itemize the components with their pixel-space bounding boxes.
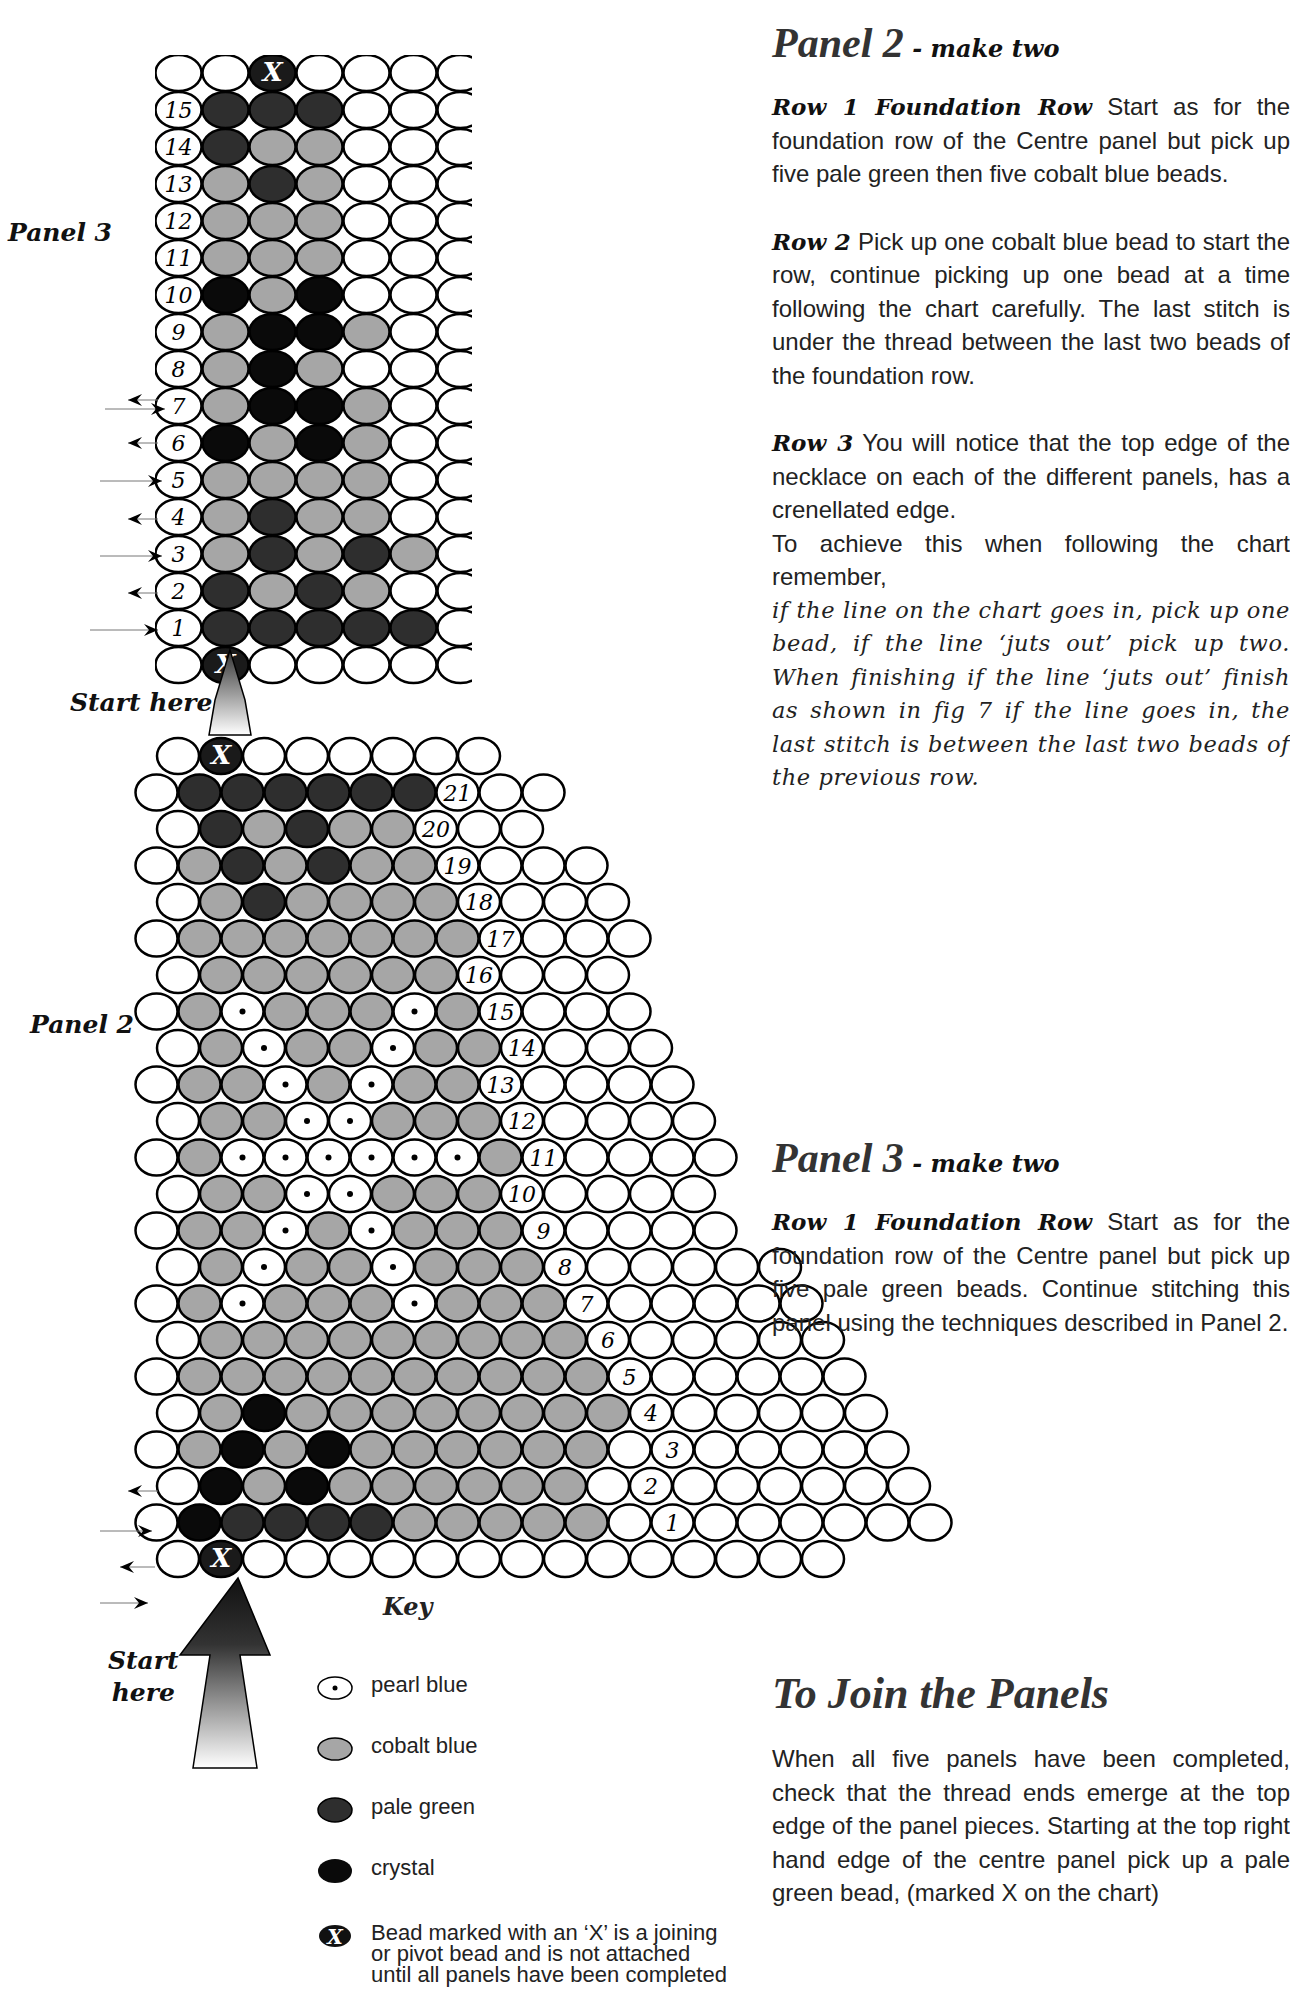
bead — [250, 240, 296, 276]
bead — [415, 738, 457, 774]
bead — [179, 1067, 221, 1103]
start-here-label-top: Start here — [70, 688, 212, 717]
bead — [344, 573, 390, 609]
bead — [297, 351, 343, 387]
bead — [351, 775, 393, 811]
bead — [109, 499, 155, 535]
bead — [391, 573, 437, 609]
bead — [485, 425, 531, 461]
bead — [485, 499, 531, 535]
bead — [286, 738, 328, 774]
bead — [344, 55, 390, 91]
bead — [297, 647, 343, 683]
panel3-bead-grid: X151413121110987654321X — [109, 55, 531, 683]
bead — [544, 1322, 586, 1358]
bead — [203, 388, 249, 424]
key-label: cobalt blue — [371, 1735, 477, 1757]
bead — [250, 351, 296, 387]
bead — [344, 166, 390, 202]
bead — [759, 1468, 801, 1504]
bead — [824, 1432, 866, 1468]
bead — [297, 240, 343, 276]
bead — [802, 1395, 844, 1431]
bead — [888, 1468, 930, 1504]
bead — [458, 1103, 500, 1139]
bead — [415, 1322, 457, 1358]
bead — [544, 1468, 586, 1504]
bead — [329, 1541, 371, 1577]
bead — [250, 388, 296, 424]
bead — [297, 277, 343, 313]
bead — [587, 1468, 629, 1504]
bead — [243, 811, 285, 847]
bead — [609, 1432, 651, 1468]
bead — [203, 610, 249, 646]
bead — [250, 610, 296, 646]
bead — [351, 994, 393, 1030]
bead — [265, 1432, 307, 1468]
bead — [501, 1468, 543, 1504]
bead — [109, 647, 155, 683]
bead — [587, 1103, 629, 1139]
bead — [179, 1213, 221, 1249]
bead — [438, 55, 484, 91]
bead — [485, 462, 531, 498]
bead — [652, 1140, 694, 1176]
bead — [480, 1432, 522, 1468]
bead — [179, 1286, 221, 1322]
bead — [738, 1505, 780, 1541]
bead — [308, 1359, 350, 1395]
bead — [437, 1505, 479, 1541]
bead — [802, 1468, 844, 1504]
start-arrow-panel2 — [180, 1578, 270, 1768]
bead — [344, 92, 390, 128]
bead — [845, 1468, 887, 1504]
bead — [351, 1505, 393, 1541]
bead — [458, 1322, 500, 1358]
bead — [501, 1249, 543, 1285]
bead — [243, 738, 285, 774]
bead — [308, 1067, 350, 1103]
bead — [157, 884, 199, 920]
bead — [391, 425, 437, 461]
svg-text:19: 19 — [444, 854, 472, 879]
bead — [372, 884, 414, 920]
bead — [136, 1067, 178, 1103]
bead — [372, 738, 414, 774]
bead — [109, 351, 155, 387]
bead — [203, 92, 249, 128]
bead — [372, 811, 414, 847]
bead — [523, 1505, 565, 1541]
bead — [200, 1468, 242, 1504]
bead — [179, 775, 221, 811]
x-bead-icon: X — [315, 1922, 355, 1950]
bead — [480, 1140, 522, 1176]
bead — [109, 129, 155, 165]
bead — [344, 203, 390, 239]
bead — [329, 738, 371, 774]
bead — [157, 1030, 199, 1066]
bead — [265, 1505, 307, 1541]
bead — [824, 1505, 866, 1541]
bead — [652, 1286, 694, 1322]
bead — [485, 351, 531, 387]
bead — [523, 1067, 565, 1103]
bead — [297, 462, 343, 498]
bead — [501, 884, 543, 920]
bead — [587, 1249, 629, 1285]
bead — [203, 240, 249, 276]
bead — [157, 1322, 199, 1358]
bead — [297, 610, 343, 646]
bead — [523, 1286, 565, 1322]
panel2-row3: Row 3 You will notice that the top edge … — [772, 426, 1290, 527]
bead — [415, 1176, 457, 1212]
bead — [609, 921, 651, 957]
bead — [501, 1322, 543, 1358]
bead — [344, 536, 390, 572]
bead — [781, 1505, 823, 1541]
bead — [308, 921, 350, 957]
key-label: pearl blue — [371, 1674, 468, 1696]
bead — [308, 775, 350, 811]
bead — [394, 1505, 436, 1541]
bead — [391, 610, 437, 646]
